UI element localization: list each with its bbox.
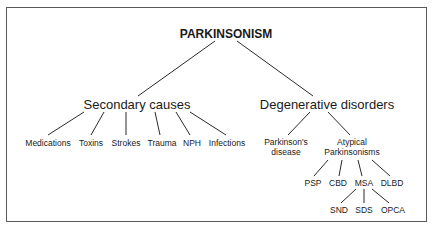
edge-msa-snd <box>341 189 356 203</box>
edge-secondary-medications <box>48 112 84 135</box>
root-node-title: PARKINSONISM <box>180 27 272 41</box>
node-snd: SND <box>330 205 348 215</box>
edge-root-degenerative <box>237 41 313 96</box>
edge-msa-opca <box>372 189 389 203</box>
node-infections: Infections <box>209 138 245 148</box>
node-psp: PSP <box>304 178 321 188</box>
node-strokes: Strokes <box>112 138 141 148</box>
node-atypical-parkinsonisms-line2: Parkinsonisms <box>324 147 379 157</box>
node-opca: OPCA <box>381 205 405 215</box>
node-toxins: Toxins <box>79 138 103 148</box>
node-degenerative-disorders: Degenerative disorders <box>260 97 395 112</box>
edge-secondary-trauma <box>155 112 160 135</box>
node-nph: NPH <box>183 138 201 148</box>
node-parkinsons-disease-line2: disease <box>271 147 301 157</box>
node-cbd: CBD <box>329 178 347 188</box>
node-secondary-causes: Secondary causes <box>84 97 191 112</box>
edge-secondary-toxins <box>91 112 104 135</box>
edge-secondary-infections <box>190 112 226 135</box>
node-sds: SDS <box>355 205 373 215</box>
edge-atypical-dlbd <box>372 160 390 176</box>
edge-atypical-cbd <box>339 160 342 176</box>
node-trauma: Trauma <box>148 138 177 148</box>
edge-secondary-nph <box>176 112 190 135</box>
node-atypical-parkinsonisms-line1: Atypical <box>337 137 367 147</box>
edge-atypical-msa <box>358 160 362 176</box>
node-medications: Medications <box>25 138 70 148</box>
node-dlbd: DLBD <box>381 178 404 188</box>
node-parkinsons-disease-line1: Parkinson's <box>264 137 308 147</box>
edge-degenerative-pd <box>288 112 310 135</box>
tree-diagram: PARKINSONISM Secondary causes Degenerati… <box>0 0 435 230</box>
edge-root-secondary <box>138 41 215 96</box>
edge-degenerative-atypical <box>328 112 350 135</box>
node-msa: MSA <box>355 178 374 188</box>
edge-atypical-psp <box>314 160 328 176</box>
